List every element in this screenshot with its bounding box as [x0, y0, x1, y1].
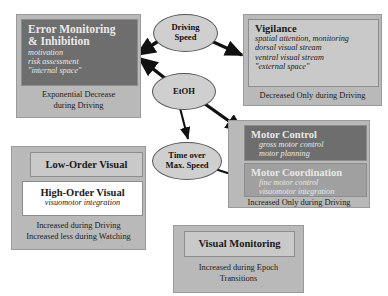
low-order-visual-title: Low-Order Visual [46, 159, 128, 170]
ellipse-time-over-max-speed-text: Time over Max. Speed [166, 151, 209, 170]
error-monitoring-sub-1: motivation [28, 48, 137, 57]
visual-monitoring-caption-line2: Transitions [174, 274, 303, 285]
visual-monitoring-box[interactable]: Visual Monitoring [184, 231, 295, 257]
arrow-etoh-to-error-monitoring [139, 58, 166, 79]
ellipse-etoh-line1: EtOH [173, 87, 195, 97]
error-monitoring-sub-2: risk assessment [28, 57, 137, 66]
high-order-visual-sub-1: visuomotor integration [23, 198, 142, 207]
motor-control-sub-1: gross motor control [251, 140, 366, 149]
vigilance-sub-1: spatial attention, monitoring [255, 34, 378, 43]
motor-coordination-sub-2: visuomotor integration [251, 187, 366, 196]
error-monitoring-caption-line1: Exponential Decrease [17, 90, 140, 101]
motor-coordination-sub-1: fine motor control [251, 178, 366, 187]
vigilance-caption-line1: Decreased Only during Driving [244, 91, 381, 102]
vigilance-sub-2: dorsal visual stream [255, 43, 378, 52]
vigilance-sub-4: "external space" [255, 62, 378, 71]
error-monitoring-group: Error Monitoring & Inhibition motivation… [16, 14, 141, 118]
visual-group-caption-line1: Increased during Driving [12, 221, 145, 232]
motor-control-title: Motor Control [251, 129, 366, 140]
visual-group: Low-Order Visual High-Order Visual visuo… [11, 146, 146, 250]
high-order-visual-box[interactable]: High-Order Visual visuomotor integration [22, 181, 143, 216]
motor-coordination-title: Motor Coordination [251, 167, 366, 178]
diagram-canvas: Error Monitoring & Inhibition motivation… [0, 0, 388, 296]
arrow-etoh-to-time-over-max-speed [180, 108, 188, 139]
ellipse-driving-speed[interactable]: Driving Speed [153, 14, 218, 52]
ellipse-time-over-max-speed-line2: Max. Speed [166, 161, 209, 171]
ellipse-time-over-max-speed[interactable]: Time over Max. Speed [152, 142, 222, 180]
low-order-visual-box[interactable]: Low-Order Visual [30, 152, 143, 177]
error-monitoring-caption-line2: during Driving [17, 101, 140, 112]
motor-control-sub-2: motor planning [251, 149, 366, 158]
visual-group-caption-line2: Increased less during Watching [12, 232, 145, 243]
vigilance-title: Vigilance [255, 23, 378, 34]
ellipse-etoh[interactable]: EtOH [152, 73, 216, 110]
vigilance-sub-3: ventral visual stream [255, 53, 378, 62]
error-monitoring-sub-3: "internal space" [28, 66, 137, 75]
motor-group-caption-line1: Increased Only during Driving [229, 198, 369, 209]
visual-monitoring-group: Visual Monitoring Increased during Epoch… [173, 225, 304, 293]
error-monitoring-box[interactable]: Error Monitoring & Inhibition motivation… [21, 19, 138, 86]
error-monitoring-title-line1: Error Monitoring [28, 23, 137, 35]
vigilance-box[interactable]: Vigilance spatial attention, monitoring … [248, 19, 379, 87]
arrow-driving-speed-to-vigilance [209, 40, 242, 55]
ellipse-etoh-text: EtOH [173, 87, 195, 97]
motor-group: Motor Control gross motor control motor … [228, 120, 370, 208]
high-order-visual-title: High-Order Visual [23, 187, 142, 198]
ellipse-driving-speed-line2: Speed [171, 33, 199, 43]
vigilance-group: Vigilance spatial attention, monitoring … [243, 14, 382, 106]
ellipse-driving-speed-text: Driving Speed [171, 23, 199, 42]
error-monitoring-title-line2: & Inhibition [28, 35, 137, 47]
visual-monitoring-caption-line1: Increased during Epoch [174, 263, 303, 274]
visual-monitoring-title: Visual Monitoring [198, 238, 280, 249]
motor-control-box[interactable]: Motor Control gross motor control motor … [244, 125, 367, 161]
motor-coordination-box[interactable]: Motor Coordination fine motor control vi… [244, 163, 367, 197]
